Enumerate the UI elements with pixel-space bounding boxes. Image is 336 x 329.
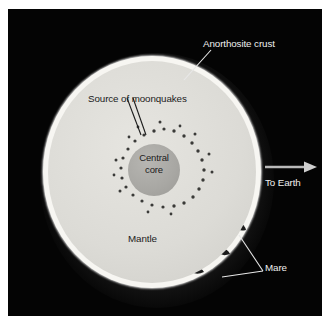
arrow-right-icon — [264, 160, 318, 174]
anorthosite-crust-label: Anorthosite crust — [203, 38, 275, 49]
mare-label: Mare — [265, 262, 287, 273]
to-earth-label: To Earth — [265, 177, 301, 188]
central-core-label-line1: Central — [128, 152, 180, 164]
to-earth-arrow — [264, 160, 318, 174]
source-of-moonquakes-label: Source of moonquakes — [88, 93, 187, 104]
central-core-label: Central core — [128, 152, 180, 175]
moon-interior-diagram: Central core — [0, 0, 336, 329]
central-core-label-line2: core — [128, 164, 180, 176]
mantle-label: Mantle — [128, 233, 157, 244]
